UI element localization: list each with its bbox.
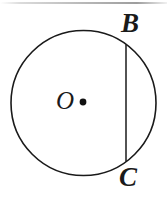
center-point-dot <box>80 99 87 106</box>
label-center-o: O <box>56 88 74 113</box>
geometry-figure: O B C <box>0 0 167 197</box>
label-point-c: C <box>119 164 137 191</box>
circle-diagram-canvas <box>0 0 167 197</box>
label-point-b: B <box>121 10 139 37</box>
